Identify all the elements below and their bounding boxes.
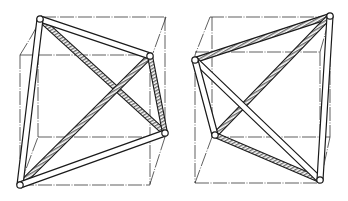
cube-edge: [195, 17, 210, 55]
tetrahedron-cube-figure: [0, 0, 348, 201]
cube-edge: [153, 17, 166, 53]
figure-svg: [0, 0, 348, 201]
rod-joint: [37, 16, 43, 22]
cube-edge: [20, 37, 31, 55]
cube-edge: [150, 137, 165, 184]
textured-rod: [214, 133, 321, 183]
rod-joint: [162, 130, 168, 136]
rod-joint: [192, 57, 198, 63]
textured-rod: [38, 17, 166, 135]
rod-joint: [147, 53, 153, 59]
plain-rod: [19, 130, 166, 188]
plain-rod: [17, 19, 43, 186]
rod-joint: [212, 132, 218, 138]
rod-joint: [317, 177, 323, 183]
right-panel: [192, 13, 333, 183]
plain-rod: [317, 16, 333, 180]
left-panel: [17, 16, 168, 188]
rod-joint: [327, 13, 333, 19]
rod-joint: [17, 182, 23, 188]
cube-edge: [195, 137, 212, 183]
